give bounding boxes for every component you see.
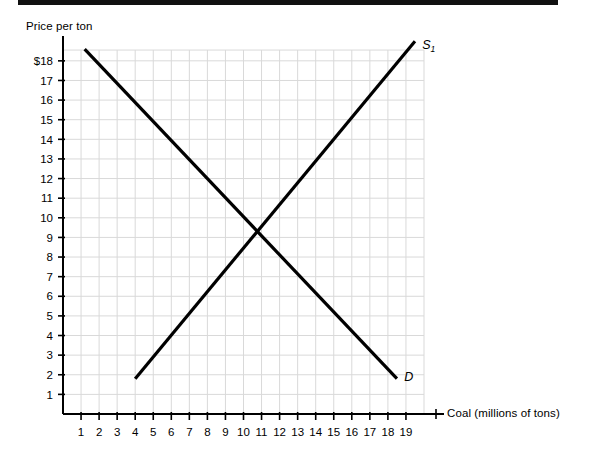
y-tick-label: $18: [34, 55, 53, 67]
x-tick-label: 5: [150, 426, 156, 438]
tick-labels-x: 12345678910111213141516171819: [78, 426, 413, 438]
y-tick-label: 2: [47, 369, 53, 381]
x-tick-label: 3: [114, 426, 120, 438]
y-tick-label: 9: [47, 232, 53, 244]
y-tick-label: 10: [40, 212, 53, 224]
x-tick-label: 9: [222, 426, 228, 438]
y-tick-label: 14: [40, 134, 53, 146]
series-end-labels: S1D: [404, 38, 435, 384]
x-tick-label: 1: [78, 426, 84, 438]
y-tick-label: 15: [40, 114, 53, 126]
x-tick-label: 13: [291, 426, 304, 438]
tick-labels-y: 1234567891011121314151617$18: [34, 55, 54, 401]
x-tick-label: 4: [132, 426, 139, 438]
chart-figure: Price per ton Coal (millions of tons) 12…: [0, 0, 589, 468]
y-tick-label: 16: [40, 94, 53, 106]
y-tick-label: 11: [41, 192, 53, 204]
x-tick-label: 18: [382, 426, 395, 438]
y-tick-label: 12: [40, 173, 53, 185]
axis-ticks: [58, 61, 436, 420]
series-line-d: [85, 49, 397, 379]
x-tick-label: 6: [168, 426, 174, 438]
y-tick-label: 4: [47, 330, 54, 342]
x-tick-label: 16: [345, 426, 358, 438]
x-tick-label: 19: [400, 426, 413, 438]
x-tick-label: 7: [186, 426, 192, 438]
y-tick-label: 5: [47, 310, 53, 322]
series-end-label-s1: S1: [422, 38, 435, 54]
x-tick-label: 8: [204, 426, 210, 438]
data-series-lines: [85, 41, 415, 378]
x-tick-label: 17: [363, 426, 376, 438]
x-tick-label: 15: [327, 426, 340, 438]
x-tick-label: 11: [256, 426, 268, 438]
x-tick-label: 12: [273, 426, 286, 438]
series-line-s1: [135, 41, 415, 378]
x-tick-label: 10: [237, 426, 250, 438]
y-tick-label: 17: [40, 75, 53, 87]
y-tick-label: 6: [47, 290, 53, 302]
y-tick-label: 1: [47, 389, 53, 401]
x-tick-label: 2: [96, 426, 102, 438]
y-tick-label: 8: [47, 251, 53, 263]
series-end-label-d: D: [404, 370, 413, 384]
grid-lines-vertical: [81, 50, 424, 414]
y-tick-label: 13: [40, 153, 53, 165]
y-tick-label: 7: [47, 271, 53, 283]
plot-canvas: 1234567891011121314151617$18 12345678910…: [0, 0, 589, 468]
x-tick-label: 14: [309, 426, 322, 438]
y-tick-label: 3: [47, 349, 53, 361]
